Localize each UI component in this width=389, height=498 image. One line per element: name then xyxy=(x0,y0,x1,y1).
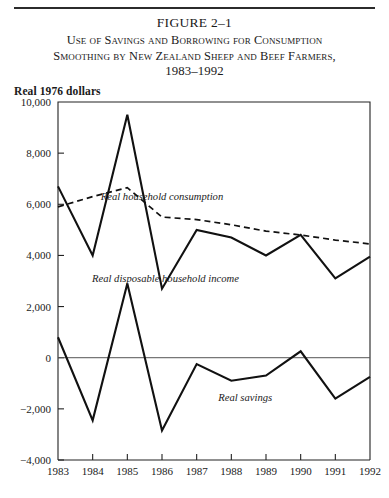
y-axis-tick-labels: −4,000−2,00002,0004,0006,0008,00010,000 xyxy=(20,96,51,466)
x-tick-1986: 1986 xyxy=(151,465,174,477)
x-tick-1983: 1983 xyxy=(47,465,70,477)
chart-plot: −4,000−2,00002,0004,0006,0008,00010,000 … xyxy=(0,0,389,498)
x-axis-tick-labels: 1983198419851986198719881989199019911992 xyxy=(47,465,381,477)
x-tick-1988: 1988 xyxy=(220,465,243,477)
y-tick-4000: 4,000 xyxy=(26,249,51,261)
y-tick-10000: 10,000 xyxy=(21,96,52,108)
y-tick-0: 0 xyxy=(46,352,52,364)
figure-container: FIGURE 2–1 Use of Savings and Borrowing … xyxy=(0,0,389,498)
y-tick--2000: −2,000 xyxy=(20,403,51,415)
y-tick-2000: 2,000 xyxy=(26,301,51,313)
x-tick-1989: 1989 xyxy=(255,465,278,477)
annotation-real-disposable-household-income: Real disposable household income xyxy=(91,273,239,284)
x-tick-1987: 1987 xyxy=(186,465,209,477)
y-tick-6000: 6,000 xyxy=(26,198,51,210)
annotation-real-savings: Real savings xyxy=(217,392,272,403)
x-tick-1984: 1984 xyxy=(82,465,105,477)
x-tick-1991: 1991 xyxy=(324,465,346,477)
y-tick-8000: 8,000 xyxy=(26,147,51,159)
annotation-real-household-consumption: Real household consumption xyxy=(100,191,223,202)
x-tick-1985: 1985 xyxy=(116,465,139,477)
x-tick-1990: 1990 xyxy=(290,465,313,477)
series-line-real-savings xyxy=(58,284,370,431)
series-annotations: Real household consumptionReal disposabl… xyxy=(91,191,272,403)
x-tick-1992: 1992 xyxy=(359,465,381,477)
